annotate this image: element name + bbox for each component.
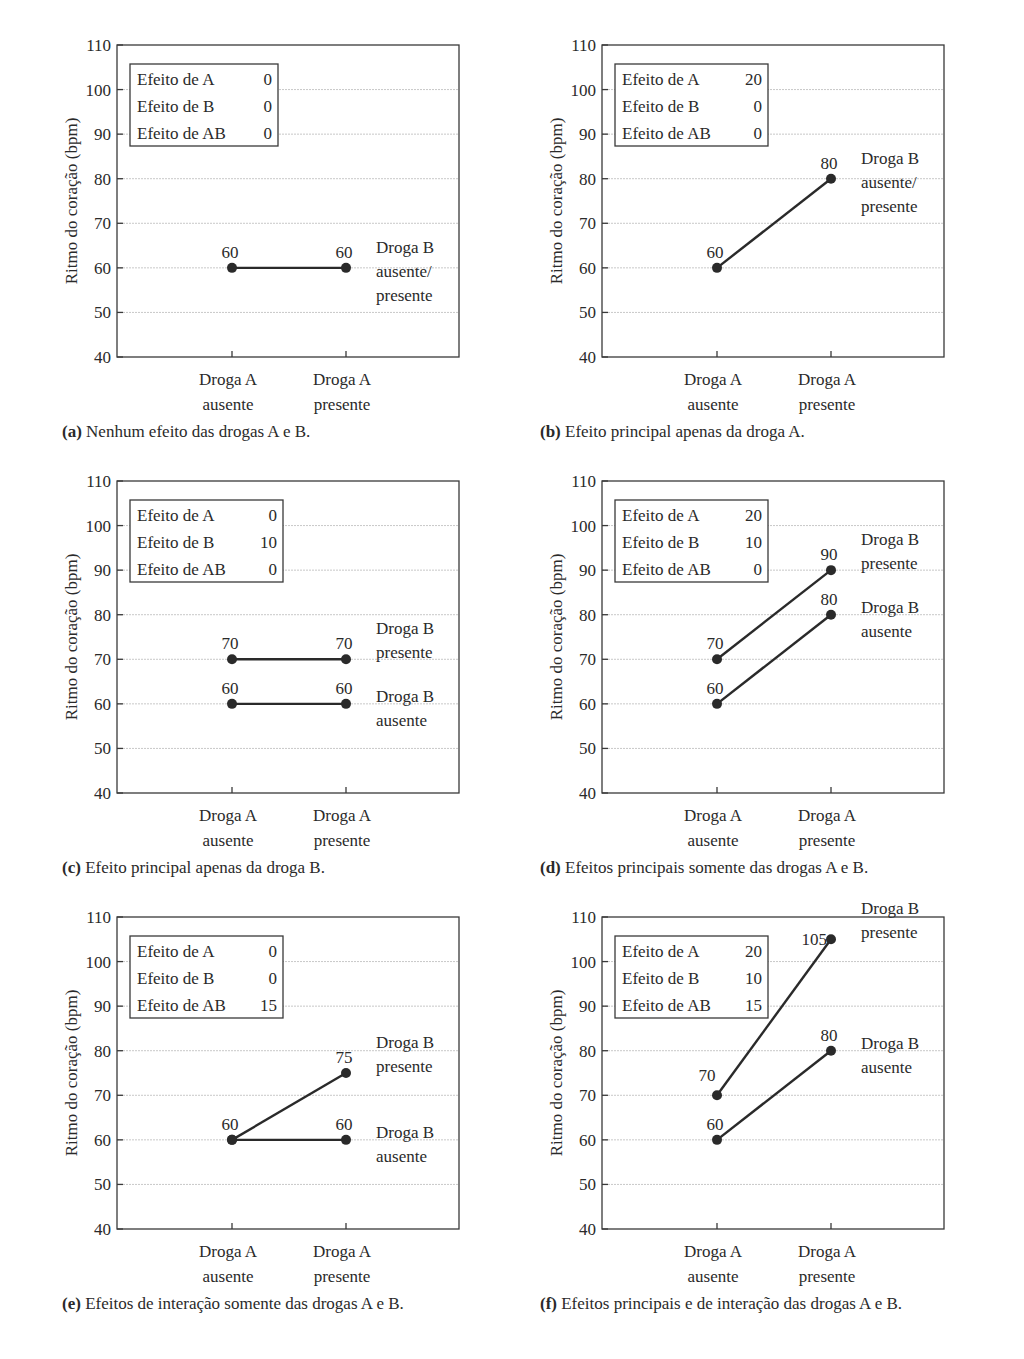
y-axis-title: Ritmo do coração (bpm) bbox=[547, 554, 566, 721]
value-label: 70 bbox=[699, 1066, 716, 1085]
caption-letter: (b) bbox=[540, 422, 561, 441]
value-label: 70 bbox=[222, 634, 239, 653]
y-tick-label: 100 bbox=[571, 953, 597, 972]
effect-value: 0 bbox=[264, 97, 273, 116]
y-tick-label: 50 bbox=[94, 1175, 111, 1194]
x-axis: Droga AausenteDroga Apresente bbox=[684, 351, 857, 414]
effects-box: Efeito de A0Efeito de B0Efeito de AB15 bbox=[130, 936, 283, 1018]
effect-label: Efeito de B bbox=[622, 533, 699, 552]
y-tick-label: 60 bbox=[579, 1131, 596, 1150]
data-point bbox=[712, 699, 722, 709]
effect-label: Efeito de AB bbox=[622, 124, 711, 143]
series-label: ausente bbox=[861, 622, 912, 641]
x-tick-label: ausente bbox=[203, 1267, 254, 1286]
x-tick-label: ausente bbox=[203, 831, 254, 850]
x-tick-label: presente bbox=[799, 1267, 856, 1286]
series-droga-b-ausente-presente: 6080Droga Bausente/presente bbox=[707, 149, 920, 273]
data-point bbox=[712, 654, 722, 664]
caption-letter: (a) bbox=[62, 422, 82, 441]
y-tick-label: 70 bbox=[94, 650, 111, 669]
series-label: Droga B bbox=[861, 149, 919, 168]
y-tick-label: 110 bbox=[86, 908, 111, 927]
effects-box: Efeito de A0Efeito de B10Efeito de AB0 bbox=[130, 500, 283, 582]
series-label: presente bbox=[861, 197, 918, 216]
effect-label: Efeito de B bbox=[622, 969, 699, 988]
caption-text: Efeito principal apenas da droga B. bbox=[81, 858, 325, 877]
x-tick-label: presente bbox=[799, 395, 856, 414]
y-axis-title: Ritmo do coração (bpm) bbox=[547, 118, 566, 285]
effect-label: Efeito de A bbox=[622, 942, 700, 961]
effect-value: 0 bbox=[264, 70, 273, 89]
y-tick-label: 80 bbox=[94, 170, 111, 189]
y-tick-label: 40 bbox=[94, 1220, 111, 1239]
caption-text: Efeitos principais e de interação das dr… bbox=[557, 1294, 902, 1313]
x-tick-label: Droga A bbox=[684, 806, 743, 825]
series-droga-b-ausente: 6060Droga Bausente bbox=[222, 1115, 435, 1166]
data-point bbox=[227, 654, 237, 664]
value-label: 80 bbox=[821, 590, 838, 609]
series-label: ausente bbox=[861, 1058, 912, 1077]
caption-e: (e) Efeitos de interação somente das dro… bbox=[62, 1294, 404, 1314]
chart-panel-d: 405060708090100110Ritmo do coração (bpm)… bbox=[485, 466, 997, 902]
series-label: Droga B bbox=[861, 1034, 919, 1053]
series-label: presente bbox=[861, 923, 918, 942]
x-tick-label: presente bbox=[314, 831, 371, 850]
y-tick-label: 40 bbox=[94, 784, 111, 803]
x-tick-label: Droga A bbox=[313, 370, 372, 389]
y-tick-label: 90 bbox=[94, 997, 111, 1016]
y-tick-label: 50 bbox=[94, 303, 111, 322]
y-tick-label: 50 bbox=[579, 303, 596, 322]
y-tick-label: 40 bbox=[94, 348, 111, 367]
x-tick-label: ausente bbox=[688, 1267, 739, 1286]
x-tick-label: Droga A bbox=[798, 370, 857, 389]
value-label: 60 bbox=[222, 243, 239, 262]
value-label: 105 bbox=[802, 930, 828, 949]
caption-c: (c) Efeito principal apenas da droga B. bbox=[62, 858, 325, 878]
line-chart-a: 405060708090100110Ritmo do coração (bpm)… bbox=[0, 30, 512, 466]
effect-label: Efeito de AB bbox=[622, 560, 711, 579]
series-label: ausente/ bbox=[861, 173, 917, 192]
y-tick-label: 40 bbox=[579, 348, 596, 367]
value-label: 70 bbox=[336, 634, 353, 653]
x-axis: Droga AausenteDroga Apresente bbox=[684, 1223, 857, 1286]
effects-box: Efeito de A20Efeito de B10Efeito de AB15 bbox=[615, 936, 768, 1018]
data-point bbox=[826, 174, 836, 184]
series-label: ausente bbox=[376, 1147, 427, 1166]
x-tick-label: Droga A bbox=[798, 1242, 857, 1261]
chart-panel-e: 405060708090100110Ritmo do coração (bpm)… bbox=[0, 902, 512, 1338]
x-axis: Droga AausenteDroga Apresente bbox=[199, 351, 372, 414]
caption-a: (a) Nenhum efeito das drogas A e B. bbox=[62, 422, 310, 442]
y-tick-label: 50 bbox=[579, 1175, 596, 1194]
series-label: presente bbox=[376, 643, 433, 662]
y-tick-label: 70 bbox=[579, 650, 596, 669]
y-tick-label: 110 bbox=[571, 36, 596, 55]
data-point bbox=[712, 263, 722, 273]
effect-value: 15 bbox=[745, 996, 762, 1015]
effect-label: Efeito de A bbox=[622, 70, 700, 89]
y-tick-label: 110 bbox=[86, 472, 111, 491]
x-tick-label: Droga A bbox=[199, 1242, 258, 1261]
value-label: 90 bbox=[821, 545, 838, 564]
effect-value: 0 bbox=[754, 560, 763, 579]
series-label: Droga B bbox=[861, 902, 919, 918]
effects-box: Efeito de A20Efeito de B0Efeito de AB0 bbox=[615, 64, 768, 146]
y-tick-label: 80 bbox=[94, 606, 111, 625]
y-tick-label: 60 bbox=[94, 1131, 111, 1150]
data-point bbox=[712, 1135, 722, 1145]
effect-value: 20 bbox=[745, 70, 762, 89]
value-label: 75 bbox=[336, 1048, 353, 1067]
y-tick-label: 100 bbox=[571, 517, 597, 536]
series-droga-b-ausente: 6080Droga Bausente bbox=[707, 590, 920, 709]
y-tick-label: 70 bbox=[94, 1086, 111, 1105]
x-tick-label: Droga A bbox=[798, 806, 857, 825]
series-label: presente bbox=[376, 1057, 433, 1076]
x-tick-label: ausente bbox=[203, 395, 254, 414]
effect-label: Efeito de AB bbox=[137, 996, 226, 1015]
caption-letter: (f) bbox=[540, 1294, 557, 1313]
line-chart-d: 405060708090100110Ritmo do coração (bpm)… bbox=[485, 466, 997, 902]
x-tick-label: Droga A bbox=[313, 1242, 372, 1261]
data-point bbox=[826, 565, 836, 575]
series-label: presente bbox=[861, 554, 918, 573]
effect-label: Efeito de A bbox=[622, 506, 700, 525]
x-tick-label: Droga A bbox=[199, 370, 258, 389]
